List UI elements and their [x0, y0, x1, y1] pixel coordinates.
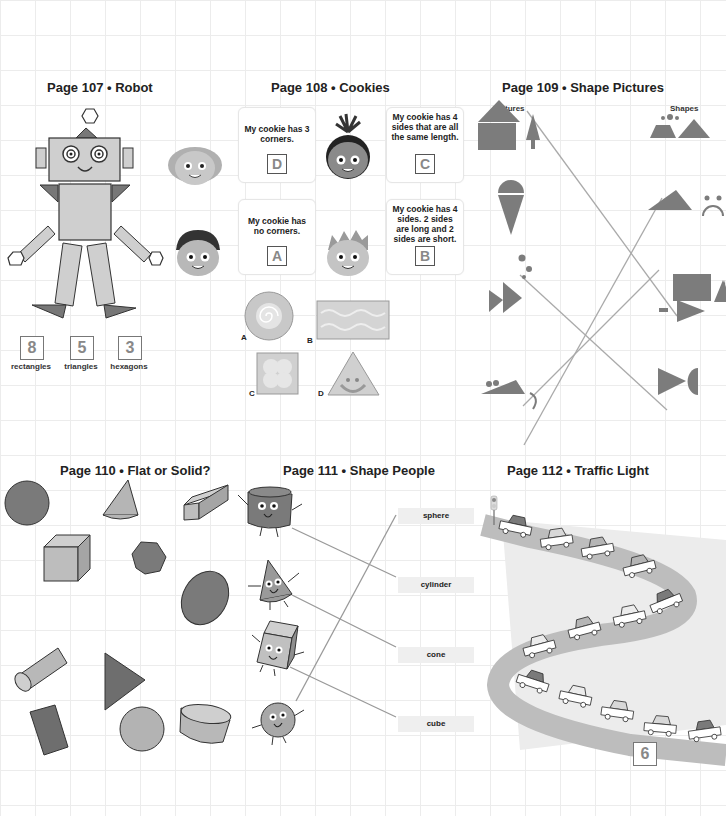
match-line: [290, 667, 396, 717]
page-112-title: Page 112 • Traffic Light: [507, 463, 649, 478]
bubble-text: My cookie has 4 sides. 2 sides are long …: [391, 204, 459, 244]
shapes-rectangle-triangles: [659, 274, 726, 322]
shape-rectangular-prism: [184, 485, 228, 520]
cylinder-person: [238, 487, 302, 537]
word-cone[interactable]: cone: [398, 647, 474, 663]
cookie-label-a: A: [241, 333, 247, 342]
sphere-person: [252, 703, 304, 745]
match-line: [523, 270, 659, 406]
picture-ice-cream: [498, 180, 524, 235]
girl-pigtail-face-icon: [318, 112, 378, 182]
page-109-title: Page 109 • Shape Pictures: [502, 80, 664, 95]
match-line: [527, 111, 677, 316]
robot-antenna-hexagon: [82, 109, 98, 123]
answer-box-c[interactable]: C: [415, 154, 435, 174]
shape-cylinder: [12, 648, 67, 694]
shape-cone: [103, 480, 138, 519]
match-line: [292, 528, 396, 577]
bubble-text: My cookie has 4 sides that are all the s…: [391, 112, 459, 142]
robot-leg-left: [55, 243, 82, 306]
boy-face-icon: [168, 225, 228, 285]
flat-solid-shapes: [0, 485, 240, 755]
cone-person: [248, 560, 299, 610]
count-hexagons-label: hexagons: [99, 362, 159, 371]
shape-rectangle: [30, 705, 68, 755]
spiky-boy-face-icon: [318, 225, 378, 285]
answer-box-a[interactable]: A: [267, 246, 287, 266]
answer-box-d[interactable]: D: [267, 154, 287, 174]
robot-ear-left: [36, 148, 46, 168]
robot-arm-right: [114, 226, 151, 262]
answer-box-cars[interactable]: 6: [633, 742, 657, 766]
shape-hexagon: [132, 542, 166, 574]
cookie-label-c: C: [249, 389, 255, 398]
speech-bubble-a: My cookie has no corners. A: [238, 199, 316, 275]
robot-shoulder-left: [40, 185, 58, 202]
match-line: [296, 515, 396, 701]
page-108-title: Page 108 • Cookies: [271, 80, 390, 95]
robot-hat-triangle: [76, 128, 97, 138]
picture-house-tree: [478, 100, 540, 150]
page-111-title: Page 111 • Shape People: [283, 463, 435, 478]
cookie-d-triangle: [327, 350, 387, 400]
robot-shoulder-right: [112, 185, 130, 202]
girl-face-icon: [165, 140, 225, 190]
shape-triangle: [105, 653, 145, 710]
cookie-label-b: B: [307, 336, 313, 345]
shape-pictures-illustration: [470, 100, 726, 400]
count-rectangles[interactable]: 8: [20, 336, 44, 360]
shapes-trapezoid-triangle: [650, 114, 710, 138]
robot-leg-right: [87, 243, 115, 306]
speech-bubble-d: My cookie has 3 corners. D: [238, 107, 316, 183]
cube-person: [252, 621, 304, 676]
shape-short-cylinder: [180, 702, 232, 744]
page-110-title: Page 110 • Flat or Solid?: [60, 463, 210, 478]
traffic-road-illustration: [480, 485, 726, 775]
count-hexagons[interactable]: 3: [118, 336, 142, 360]
robot-body: [59, 184, 111, 240]
speech-bubble-b: My cookie has 4 sides. 2 sides are long …: [386, 199, 464, 275]
match-line: [524, 198, 662, 445]
shape-circle: [5, 481, 49, 525]
page-107-title: Page 107 • Robot: [47, 80, 153, 95]
robot-hand-right: [149, 252, 163, 265]
robot-hand-left: [8, 252, 24, 265]
cookie-label-d: D: [318, 389, 324, 398]
count-triangles[interactable]: 5: [70, 336, 94, 360]
match-line: [292, 595, 396, 647]
bubble-text: My cookie has 3 corners.: [243, 124, 311, 144]
shape-cube: [44, 535, 90, 581]
robot-foot-left: [32, 305, 66, 318]
match-line: [520, 275, 667, 410]
robot-ear-right: [123, 148, 133, 168]
robot-head: [49, 138, 120, 181]
bubble-text: My cookie has no corners.: [243, 216, 311, 236]
word-cylinder[interactable]: cylinder: [398, 577, 474, 593]
picture-mouse: [481, 380, 536, 409]
shape-oval: [172, 563, 238, 633]
cookie-a-circle: [243, 290, 303, 350]
shape-sphere: [120, 707, 164, 751]
shapes-triangle-semicircle: [658, 368, 698, 395]
shapes-triangle-arc: [648, 190, 723, 216]
cookie-b-rectangle: [317, 301, 397, 341]
robot-foot-right: [104, 305, 136, 318]
speech-bubble-c: My cookie has 4 sides that are all the s…: [386, 107, 464, 183]
picture-fish: [489, 255, 532, 314]
word-sphere[interactable]: sphere: [398, 508, 474, 524]
cookie-c-square: [257, 353, 302, 398]
answer-box-b[interactable]: B: [415, 246, 435, 266]
word-cube[interactable]: cube: [398, 716, 474, 732]
